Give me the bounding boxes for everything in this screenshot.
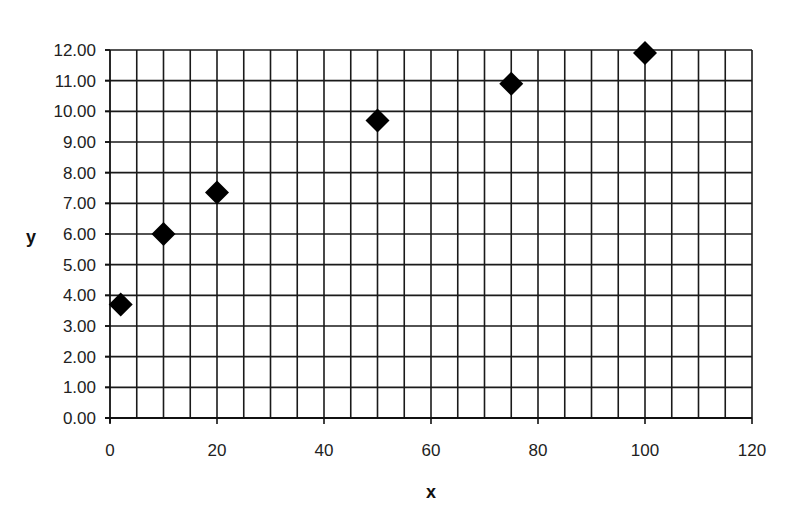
x-axis-title: x <box>426 482 436 502</box>
y-axis-title: y <box>26 227 36 247</box>
y-tick-label: 7.00 <box>63 194 96 213</box>
y-tick-label: 12.00 <box>53 41 96 60</box>
y-tick-label: 9.00 <box>63 133 96 152</box>
data-point-diamond-icon <box>633 41 657 65</box>
x-tick-label: 20 <box>208 441 227 460</box>
y-tick-label: 0.00 <box>63 409 96 428</box>
y-tick-label: 6.00 <box>63 225 96 244</box>
y-axis-tick-labels: 0.001.002.003.004.005.006.007.008.009.00… <box>53 41 96 428</box>
y-tick-label: 2.00 <box>63 348 96 367</box>
y-tick-label: 1.00 <box>63 378 96 397</box>
y-tick-label: 4.00 <box>63 286 96 305</box>
y-tick-label: 3.00 <box>63 317 96 336</box>
x-tick-label: 100 <box>631 441 659 460</box>
y-tick-label: 10.00 <box>53 102 96 121</box>
y-tick-label: 8.00 <box>63 164 96 183</box>
data-point-diamond-icon <box>152 222 176 246</box>
x-tick-label: 40 <box>315 441 334 460</box>
data-point-diamond-icon <box>499 72 523 96</box>
x-tick-label: 120 <box>738 441 766 460</box>
y-tick-label: 5.00 <box>63 256 96 275</box>
axes <box>105 50 752 424</box>
x-tick-label: 80 <box>529 441 548 460</box>
x-axis-tick-labels: 020406080100120 <box>105 441 766 460</box>
grid-lines <box>105 50 752 418</box>
x-tick-label: 0 <box>105 441 114 460</box>
scatter-chart: 020406080100120 0.001.002.003.004.005.00… <box>0 0 801 522</box>
data-point-diamond-icon <box>205 181 229 205</box>
x-tick-label: 60 <box>422 441 441 460</box>
y-tick-label: 11.00 <box>55 72 96 91</box>
